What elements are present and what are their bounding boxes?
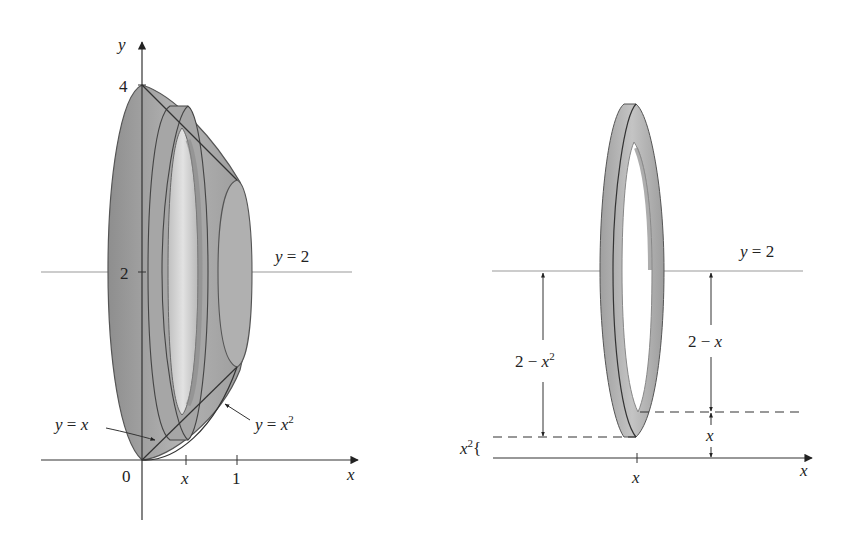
outer-gap-label: x2{ (459, 437, 481, 458)
y-axis-label: y (116, 35, 126, 54)
diagram-canvas: y 4 2 x 0 x 1 y = 2 y = x y = x2 2 − x2 (0, 0, 863, 548)
x-axis-label: x (346, 465, 355, 484)
label-y-equals-x: y = x (53, 415, 89, 434)
end-cap (218, 180, 252, 367)
left-figure: y 4 2 x 0 x 1 y = 2 y = x y = x2 (41, 35, 358, 520)
x-tick-0: 0 (122, 467, 131, 486)
y-tick-4: 4 (119, 77, 128, 96)
label-y-equals-2: y = 2 (273, 247, 309, 266)
x-tick-x: x (180, 469, 189, 488)
x-tick-label: x (631, 468, 640, 487)
label-y-equals-x-squared: y = x2 (253, 413, 294, 434)
x-tick-1: 1 (232, 469, 241, 488)
y-tick-2: 2 (120, 264, 129, 283)
inner-gap-label: x (705, 426, 714, 445)
outer-radius-label: 2 − x2 (515, 350, 555, 371)
right-figure: 2 − x2 2 − x x x2{ x x y = 2 (459, 104, 812, 487)
inner-radius-label: 2 − x (688, 332, 723, 351)
arrow-to-parabola (225, 404, 250, 420)
x-axis-label: x (799, 461, 808, 480)
label-y-equals-2: y = 2 (738, 242, 774, 261)
